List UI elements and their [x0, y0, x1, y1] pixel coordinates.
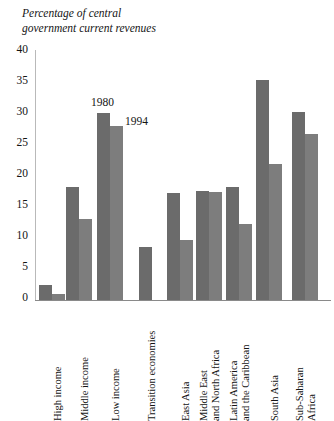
category-label-line-1: Transition economies [146, 331, 158, 421]
category-label-text: Transition economies [146, 331, 158, 421]
category-label-line-1: East Asia [180, 382, 192, 421]
category-label-text: East Asia [180, 382, 192, 421]
category-label-line-1: Latin America [228, 345, 240, 421]
category-label-line-1: Low income [110, 368, 122, 421]
category-label-text: Middle Eastand North Africa [198, 350, 221, 421]
category-label-line-1: Sub-Saharan [294, 367, 306, 421]
category-label-line-2: and the Caribbean [239, 345, 251, 421]
category-label-text: High income [52, 366, 64, 421]
category-label-text: South Asia [269, 375, 281, 421]
category-label-line-2: and North Africa [209, 350, 221, 421]
category-label-text: Latin Americaand the Caribbean [228, 345, 251, 421]
category-label-line-2: Africa [305, 367, 317, 421]
category-label-text: Low income [110, 368, 122, 421]
category-label-line-1: Middle income [79, 357, 91, 421]
category-label-line-1: High income [52, 366, 64, 421]
category-label-line-1: South Asia [269, 375, 281, 421]
category-label-text: Sub-SaharanAfrica [294, 367, 317, 421]
category-label-line-1: Middle East [198, 350, 210, 421]
category-label-text: Middle income [79, 357, 91, 421]
